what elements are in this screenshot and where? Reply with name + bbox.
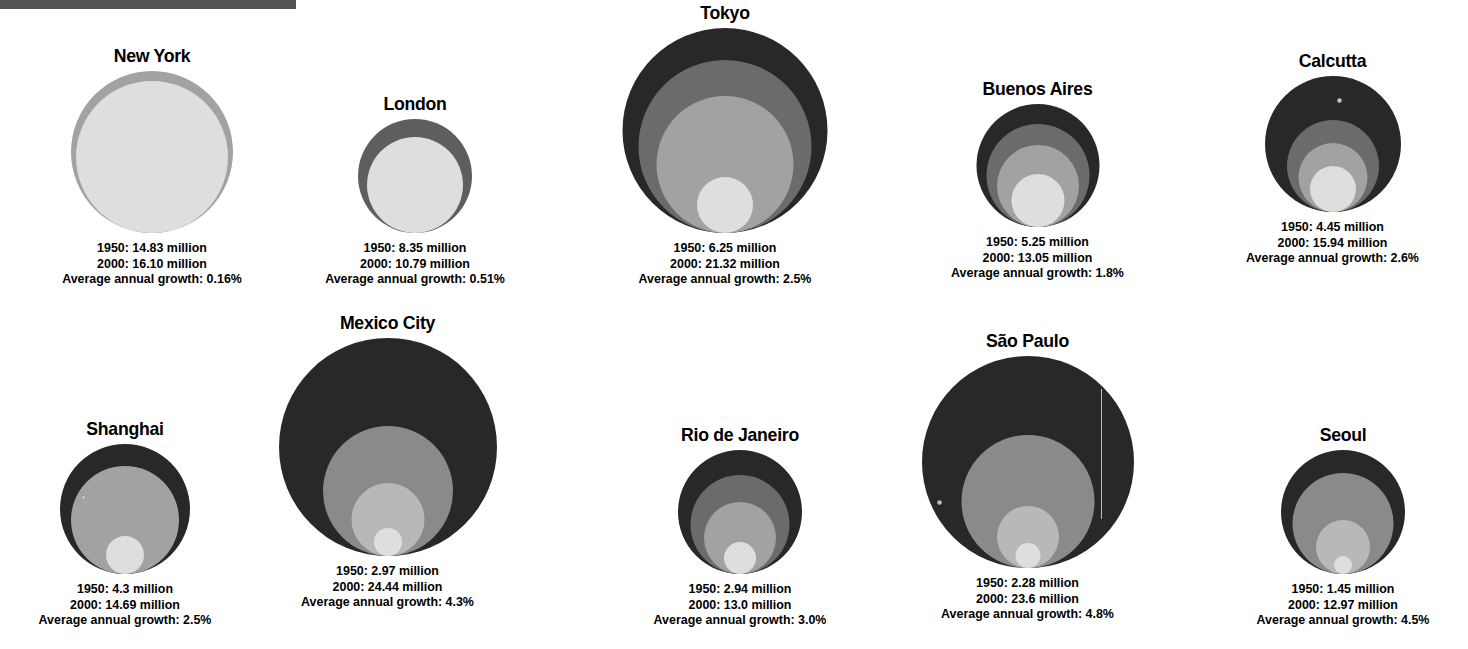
bubble-group [675, 450, 805, 574]
city-title: Calcutta [1214, 50, 1451, 72]
stat-growth: Average annual growth: 0.16% [23, 271, 281, 287]
bubble-1950 [697, 177, 753, 233]
bubble-group [62, 71, 242, 233]
city-bubble-grid: New York 1950: 14.83 million 2000: 16.10… [0, 0, 1468, 649]
stat-1950: 1950: 4.3 million [10, 581, 240, 597]
bubble-1950 [1310, 166, 1356, 212]
stat-2000: 2000: 16.10 million [23, 256, 281, 272]
city-card-buenos-aires: Buenos Aires 1950: 5.25 million 2000: 13… [905, 78, 1170, 281]
stat-2000: 2000: 10.79 million [300, 256, 530, 272]
city-stats: 1950: 1.45 million 2000: 12.97 million A… [1228, 581, 1458, 628]
stat-growth: Average annual growth: 1.8% [916, 265, 1160, 281]
scan-speck-icon [81, 495, 86, 500]
city-stats: 1950: 2.94 million 2000: 13.0 million Av… [625, 581, 855, 628]
stat-2000: 2000: 12.97 million [1228, 597, 1458, 613]
city-card-new-york: New York 1950: 14.83 million 2000: 16.10… [12, 45, 292, 287]
city-stats: 1950: 6.25 million 2000: 21.32 million A… [601, 240, 849, 287]
bubble-1950 [367, 137, 463, 233]
city-stats: 1950: 4.3 million 2000: 14.69 million Av… [10, 581, 240, 628]
city-stats: 1950: 5.25 million 2000: 13.05 million A… [916, 234, 1160, 281]
stat-1950: 1950: 1.45 million [1228, 581, 1458, 597]
stat-2000: 2000: 23.6 million [906, 591, 1150, 607]
city-card-sao-paulo: São Paulo 1950: 2.28 million 2000: 23.6 … [895, 330, 1160, 622]
stat-growth: Average annual growth: 0.51% [300, 271, 530, 287]
stat-1950: 1950: 14.83 million [23, 240, 281, 256]
stat-1950: 1950: 2.97 million [266, 563, 510, 579]
city-stats: 1950: 2.28 million 2000: 23.6 million Av… [906, 575, 1150, 622]
city-card-rio-de-janeiro: Rio de Janeiro 1950: 2.94 million 2000: … [615, 424, 865, 628]
stat-growth: Average annual growth: 4.8% [906, 606, 1150, 622]
stat-2000: 2000: 15.94 million [1215, 235, 1450, 251]
bubble-group [920, 356, 1135, 568]
city-title: Buenos Aires [914, 78, 1160, 100]
stat-1950: 1950: 8.35 million [300, 240, 530, 256]
bubble-1950 [374, 528, 402, 556]
city-card-mexico-city: Mexico City 1950: 2.97 million 2000: 24.… [255, 312, 520, 610]
bubble-group [355, 119, 475, 233]
scan-artifact-line [1101, 389, 1102, 519]
stat-2000: 2000: 24.44 million [266, 579, 510, 595]
stat-growth: Average annual growth: 4.5% [1228, 612, 1458, 628]
stat-growth: Average annual growth: 4.3% [266, 594, 510, 610]
city-title: Tokyo [599, 2, 850, 24]
stat-1950: 1950: 4.45 million [1215, 219, 1450, 235]
stat-1950: 1950: 2.28 million [906, 575, 1150, 591]
stat-2000: 2000: 21.32 million [601, 256, 849, 272]
city-card-shanghai: Shanghai 1950: 4.3 million 2000: 14.69 m… [0, 418, 250, 628]
city-title: New York [22, 45, 282, 67]
city-stats: 1950: 2.97 million 2000: 24.44 million A… [266, 563, 510, 610]
bubble-group [1263, 76, 1403, 212]
bubble-1950 [106, 536, 144, 574]
bubble-group [620, 28, 830, 233]
city-title: London [299, 93, 532, 115]
scan-speck-icon [1337, 98, 1342, 103]
city-stats: 1950: 4.45 million 2000: 15.94 million A… [1215, 219, 1450, 266]
bubble-1950 [1015, 543, 1040, 568]
city-stats: 1950: 14.83 million 2000: 16.10 million … [23, 240, 281, 287]
city-title: Mexico City [264, 312, 510, 334]
city-card-london: London 1950: 8.35 million 2000: 10.79 mi… [290, 93, 540, 287]
scan-speck-icon [937, 500, 942, 505]
city-card-tokyo: Tokyo 1950: 6.25 million 2000: 21.32 mil… [590, 2, 860, 287]
stat-1950: 1950: 2.94 million [625, 581, 855, 597]
bubble-1950 [1011, 174, 1064, 227]
stat-growth: Average annual growth: 2.5% [10, 612, 240, 628]
city-title: São Paulo [904, 330, 1150, 352]
stat-growth: Average annual growth: 3.0% [625, 612, 855, 628]
city-card-calcutta: Calcutta 1950: 4.45 million 2000: 15.94 … [1205, 50, 1460, 266]
bubble-1950 [76, 81, 228, 233]
stat-2000: 2000: 13.0 million [625, 597, 855, 613]
bubble-1950 [724, 542, 756, 574]
stat-1950: 1950: 6.25 million [601, 240, 849, 256]
city-title: Seoul [1227, 424, 1460, 446]
bubble-group [280, 338, 495, 556]
bubble-group [1278, 450, 1408, 574]
stat-1950: 1950: 5.25 million [916, 234, 1160, 250]
bubble-1950 [1334, 556, 1352, 574]
city-title: Shanghai [9, 418, 242, 440]
bubble-group [975, 104, 1100, 227]
bubble-group [58, 444, 193, 574]
stat-growth: Average annual growth: 2.6% [1215, 250, 1450, 266]
stat-2000: 2000: 14.69 million [10, 597, 240, 613]
city-card-seoul: Seoul 1950: 1.45 million 2000: 12.97 mil… [1218, 424, 1468, 628]
city-title: Rio de Janeiro [624, 424, 857, 446]
stat-2000: 2000: 13.05 million [916, 250, 1160, 266]
stat-growth: Average annual growth: 2.5% [601, 271, 849, 287]
city-stats: 1950: 8.35 million 2000: 10.79 million A… [300, 240, 530, 287]
